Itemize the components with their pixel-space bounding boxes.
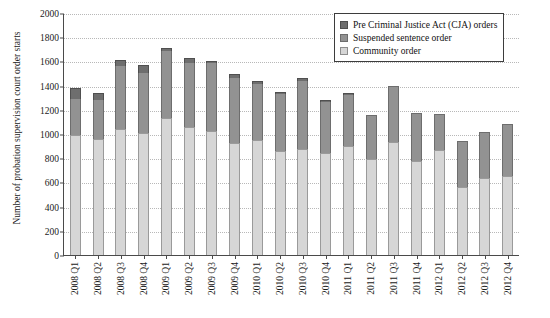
bar-slot: 2008 Q2 — [87, 14, 110, 255]
bar-slot: 2009 Q4 — [223, 14, 246, 255]
bar-segment-community — [502, 176, 513, 255]
stacked-bar[interactable] — [388, 86, 399, 255]
stacked-bar[interactable] — [184, 58, 195, 255]
legend-label: Community order — [353, 46, 421, 56]
x-axis-tick-label: 2008 Q2 — [93, 262, 103, 295]
stacked-bar[interactable] — [138, 65, 149, 255]
bar-segment-community — [206, 131, 217, 255]
x-axis-tick-mark — [326, 255, 327, 259]
x-axis-tick-label: 2009 Q1 — [161, 262, 171, 295]
x-axis-tick-mark — [235, 255, 236, 259]
bar-segment-community — [479, 178, 490, 255]
legend-item-suspended: Suspended sentence order — [340, 31, 497, 44]
stacked-bar[interactable] — [297, 78, 308, 255]
stacked-bar[interactable] — [161, 48, 172, 255]
stacked-bar[interactable] — [229, 74, 240, 255]
stacked-bar[interactable] — [115, 60, 126, 255]
bar-chart: Number of probation supervision court or… — [0, 0, 550, 318]
bar-segment-community — [434, 150, 445, 255]
bar-segment-suspended — [138, 73, 149, 134]
stacked-bar[interactable] — [206, 61, 217, 255]
x-axis-tick-mark — [166, 255, 167, 259]
x-axis-tick-mark — [144, 255, 145, 259]
x-axis-tick-label: 2008 Q1 — [70, 262, 80, 295]
bar-segment-community — [388, 142, 399, 255]
x-axis-tick-mark — [212, 255, 213, 259]
bar-segment-suspended — [252, 84, 263, 140]
y-axis-tick-mark — [60, 256, 64, 257]
stacked-bar[interactable] — [320, 100, 331, 255]
x-axis-tick-mark — [75, 255, 76, 259]
bar-segment-suspended — [184, 63, 195, 127]
stacked-bar[interactable] — [411, 113, 422, 255]
bar-segment-suspended — [457, 141, 468, 188]
x-axis-tick-mark — [303, 255, 304, 259]
bar-segment-pre-cja — [138, 65, 149, 73]
x-axis-tick-label: 2011 Q1 — [343, 262, 353, 295]
bar-slot: 2009 Q2 — [178, 14, 201, 255]
bar-segment-suspended — [502, 124, 513, 177]
bar-segment-community — [252, 140, 263, 255]
stacked-bar[interactable] — [93, 93, 104, 255]
bar-segment-pre-cja — [93, 93, 104, 100]
bar-segment-pre-cja — [115, 60, 126, 67]
y-axis-title: Number of probation supervision court or… — [12, 0, 30, 258]
stacked-bar[interactable] — [275, 92, 286, 255]
x-axis-tick-label: 2008 Q3 — [116, 262, 126, 295]
light-square-icon — [340, 47, 348, 55]
bar-slot: 2010 Q3 — [292, 14, 315, 255]
bar-segment-suspended — [70, 99, 81, 135]
stacked-bar[interactable] — [343, 93, 354, 255]
bar-slot: 2010 Q1 — [246, 14, 269, 255]
bar-slot: 2008 Q1 — [64, 14, 87, 255]
x-axis-tick-label: 2011 Q4 — [412, 262, 422, 295]
bar-segment-suspended — [93, 100, 104, 139]
x-axis-tick-label: 2009 Q4 — [230, 262, 240, 295]
x-axis-tick-mark — [439, 255, 440, 259]
x-axis-tick-label: 2010 Q3 — [298, 262, 308, 295]
stacked-bar[interactable] — [502, 124, 513, 255]
bar-slot: 2009 Q1 — [155, 14, 178, 255]
bar-segment-suspended — [115, 66, 126, 129]
stacked-bar[interactable] — [70, 88, 81, 255]
stacked-bar[interactable] — [457, 141, 468, 255]
x-axis-tick-label: 2012 Q1 — [434, 262, 444, 295]
bar-segment-community — [411, 161, 422, 255]
x-axis-tick-mark — [280, 255, 281, 259]
bar-segment-suspended — [275, 94, 286, 151]
bar-segment-community — [320, 153, 331, 255]
legend-item-community: Community order — [340, 44, 497, 57]
stacked-bar[interactable] — [479, 132, 490, 255]
x-axis-tick-label: 2008 Q4 — [139, 262, 149, 295]
x-axis-tick-mark — [121, 255, 122, 259]
x-axis-tick-label: 2009 Q3 — [207, 262, 217, 295]
bar-slot: 2010 Q2 — [269, 14, 292, 255]
x-axis-tick-mark — [417, 255, 418, 259]
bar-segment-suspended — [343, 95, 354, 146]
bar-segment-suspended — [388, 86, 399, 142]
bar-segment-community — [275, 151, 286, 255]
bar-segment-community — [138, 133, 149, 255]
bar-slot: 2008 Q4 — [132, 14, 155, 255]
bar-segment-community — [161, 118, 172, 255]
bar-segment-suspended — [297, 81, 308, 148]
stacked-bar[interactable] — [434, 114, 445, 255]
x-axis-tick-label: 2011 Q3 — [389, 262, 399, 295]
bar-segment-community — [115, 129, 126, 255]
legend-label: Suspended sentence order — [353, 33, 452, 43]
mid-square-icon — [340, 34, 348, 42]
legend-item-pre-cja: Pre Criminal Justice Act (CJA) orders — [340, 18, 497, 31]
bar-slot: 2009 Q3 — [201, 14, 224, 255]
bar-segment-pre-cja — [70, 88, 81, 99]
x-axis-tick-label: 2012 Q4 — [503, 262, 513, 295]
stacked-bar[interactable] — [252, 81, 263, 255]
bar-segment-suspended — [479, 132, 490, 178]
stacked-bar[interactable] — [366, 115, 377, 255]
x-axis-tick-mark — [371, 255, 372, 259]
bar-segment-community — [229, 143, 240, 255]
legend: Pre Criminal Justice Act (CJA) orders Su… — [334, 13, 504, 62]
bar-segment-suspended — [206, 63, 217, 131]
bar-segment-community — [457, 187, 468, 255]
bar-segment-suspended — [434, 114, 445, 150]
bar-segment-suspended — [229, 78, 240, 143]
